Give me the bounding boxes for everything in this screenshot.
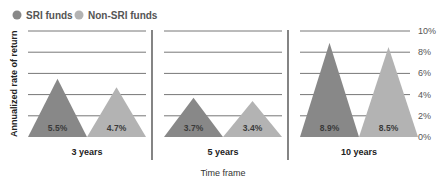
y-tick-label: 4% [418, 90, 431, 100]
y-tick-label: 0% [418, 132, 431, 142]
data-label: 3.4% [243, 123, 263, 133]
category-label: 10 years [341, 147, 377, 157]
y-axis-label: Annualized rate of return [9, 30, 19, 137]
legend: SRI funds Non-SRI funds [13, 10, 158, 21]
x-axis-label: Time frame [200, 168, 245, 178]
data-label: 4.7% [107, 123, 127, 133]
y-tick-label: 6% [418, 68, 431, 78]
legend-marker-sri [13, 11, 22, 20]
data-label: 8.5% [379, 123, 399, 133]
legend-marker-non-sri [75, 11, 84, 20]
legend-label-non-sri: Non-SRI funds [88, 10, 158, 21]
y-tick-labels: 0%2%4%6%8%10% [418, 26, 436, 142]
y-tick-label: 8% [418, 47, 431, 57]
data-label: 8.9% [320, 123, 340, 133]
legend-label-sri: SRI funds [26, 10, 73, 21]
y-tick-label: 2% [418, 111, 431, 121]
category-label: 5 years [207, 147, 238, 157]
gridlines [28, 31, 410, 116]
y-tick-label: 10% [418, 26, 436, 36]
category-labels: 3 years5 years10 years [71, 147, 377, 157]
data-label: 3.7% [184, 123, 204, 133]
data-label: 5.5% [48, 123, 68, 133]
chart: SRI funds Non-SRI funds Annualized rate … [0, 0, 446, 185]
category-label: 3 years [71, 147, 102, 157]
triangle-marks: 5.5%4.7%3.7%3.4%8.9%8.5% [28, 43, 418, 137]
